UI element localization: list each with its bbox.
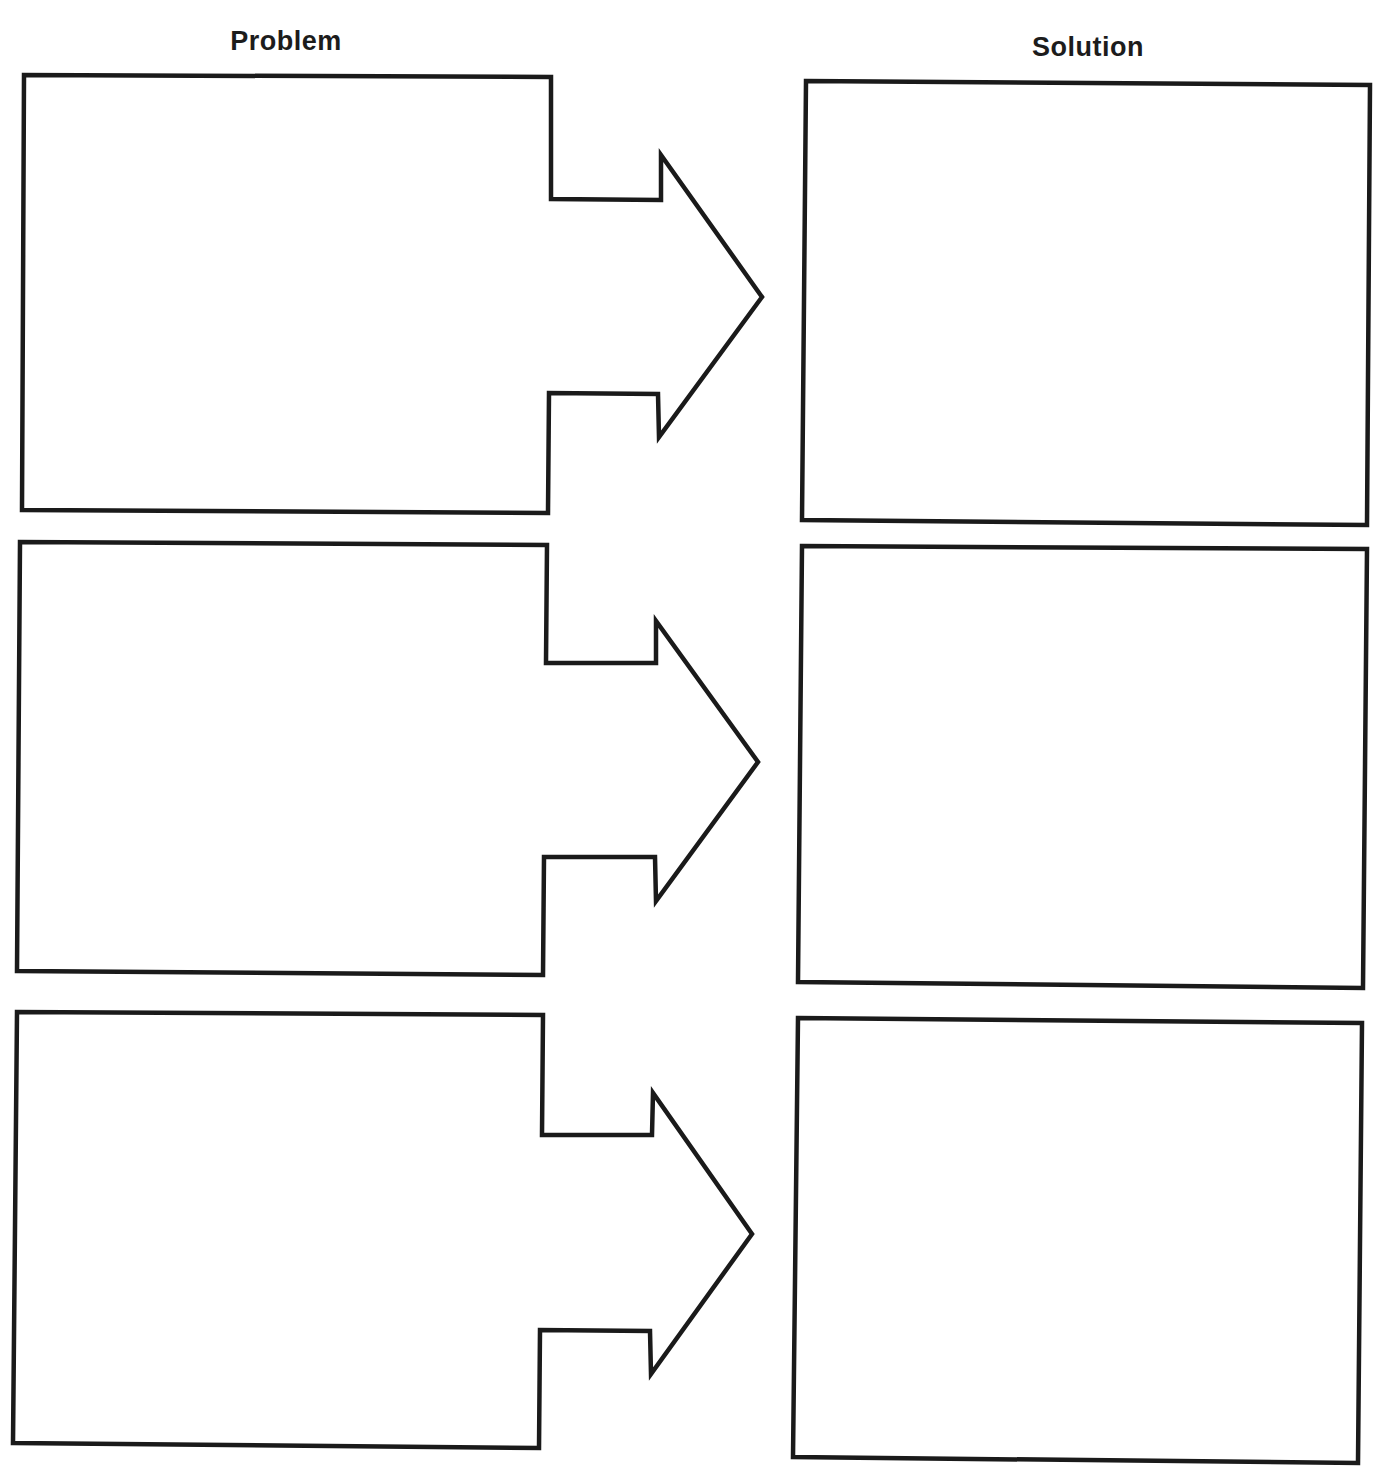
row-1 xyxy=(22,75,1370,525)
row-2 xyxy=(17,542,1367,988)
solution-box-2[interactable] xyxy=(798,546,1367,988)
problem-arrow-box-3[interactable] xyxy=(13,1012,752,1448)
problem-solution-diagram xyxy=(0,0,1391,1471)
solution-box-1[interactable] xyxy=(802,81,1370,525)
problem-arrow-box-2[interactable] xyxy=(17,542,758,975)
problem-arrow-box-1[interactable] xyxy=(22,75,762,513)
solution-box-3[interactable] xyxy=(793,1018,1362,1463)
row-3 xyxy=(13,1012,1362,1463)
